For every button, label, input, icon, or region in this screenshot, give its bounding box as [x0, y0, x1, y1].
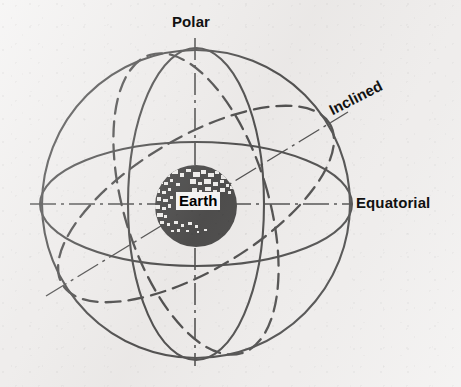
orbit-diagram-figure: Polar Inclined Equatorial Earth	[0, 0, 461, 387]
polar-label: Polar	[172, 14, 210, 29]
equatorial-label: Equatorial	[356, 195, 430, 210]
earth-label: Earth	[176, 192, 220, 210]
